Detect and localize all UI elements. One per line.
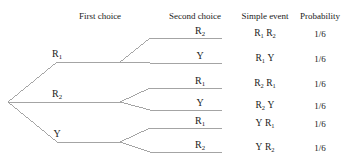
probability-value-3: 1/6 <box>314 102 326 111</box>
branch-level2-0-0 <box>120 38 150 62</box>
second-choice-label-4: R1 <box>195 116 205 128</box>
tree-branch-lines <box>0 0 346 168</box>
column-header-1: Second choice <box>169 12 221 21</box>
second-choice-label-5: R2 <box>195 140 205 152</box>
branch-level2-2-1 <box>120 142 150 152</box>
probability-value-5: 1/6 <box>314 144 326 153</box>
simple-event-2: R2R1 <box>254 79 276 89</box>
branch-level1-2 <box>8 102 57 142</box>
branch-level2-0-1 <box>120 62 150 63</box>
probability-value-4: 1/6 <box>314 120 326 129</box>
first-choice-label-2: Y <box>53 129 60 139</box>
branch-level2-1-1 <box>120 102 150 110</box>
column-header-0: First choice <box>79 12 121 21</box>
simple-event-4: YR1 <box>256 119 275 129</box>
second-choice-label-0: R2 <box>195 26 205 38</box>
first-choice-label-0: R1 <box>52 49 62 61</box>
simple-event-1: R1Y <box>256 54 275 64</box>
second-choice-label-2: R1 <box>195 76 205 88</box>
probability-value-2: 1/6 <box>314 80 326 89</box>
second-choice-label-3: Y <box>196 98 203 108</box>
second-choice-label-1: Y <box>196 51 203 61</box>
simple-event-0: R1R2 <box>254 29 276 39</box>
simple-event-5: YR2 <box>256 143 275 153</box>
simple-event-3: R2Y <box>256 101 275 111</box>
probability-value-1: 1/6 <box>314 55 326 64</box>
branch-level2-2-0 <box>120 128 150 142</box>
branch-level2-1-0 <box>120 88 150 102</box>
probability-value-0: 1/6 <box>314 30 326 39</box>
column-header-2: Simple event <box>241 12 288 21</box>
column-header-3: Probability <box>300 12 340 21</box>
probability-tree-figure: First choiceSecond choiceSimple eventPro… <box>0 0 346 168</box>
first-choice-label-1: R2 <box>52 89 62 101</box>
branch-level1-0 <box>8 62 57 102</box>
